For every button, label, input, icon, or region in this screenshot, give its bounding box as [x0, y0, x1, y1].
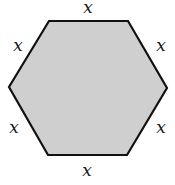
- hexagon-shape: [9, 21, 167, 155]
- label-upper-left-side: x: [13, 35, 23, 55]
- label-top-side: x: [83, 0, 93, 17]
- hexagon-diagram: x x x x x x: [0, 0, 175, 185]
- label-lower-left-side: x: [9, 117, 19, 137]
- label-upper-right-side: x: [156, 35, 166, 55]
- label-lower-right-side: x: [156, 117, 166, 137]
- label-bottom-side: x: [82, 160, 92, 180]
